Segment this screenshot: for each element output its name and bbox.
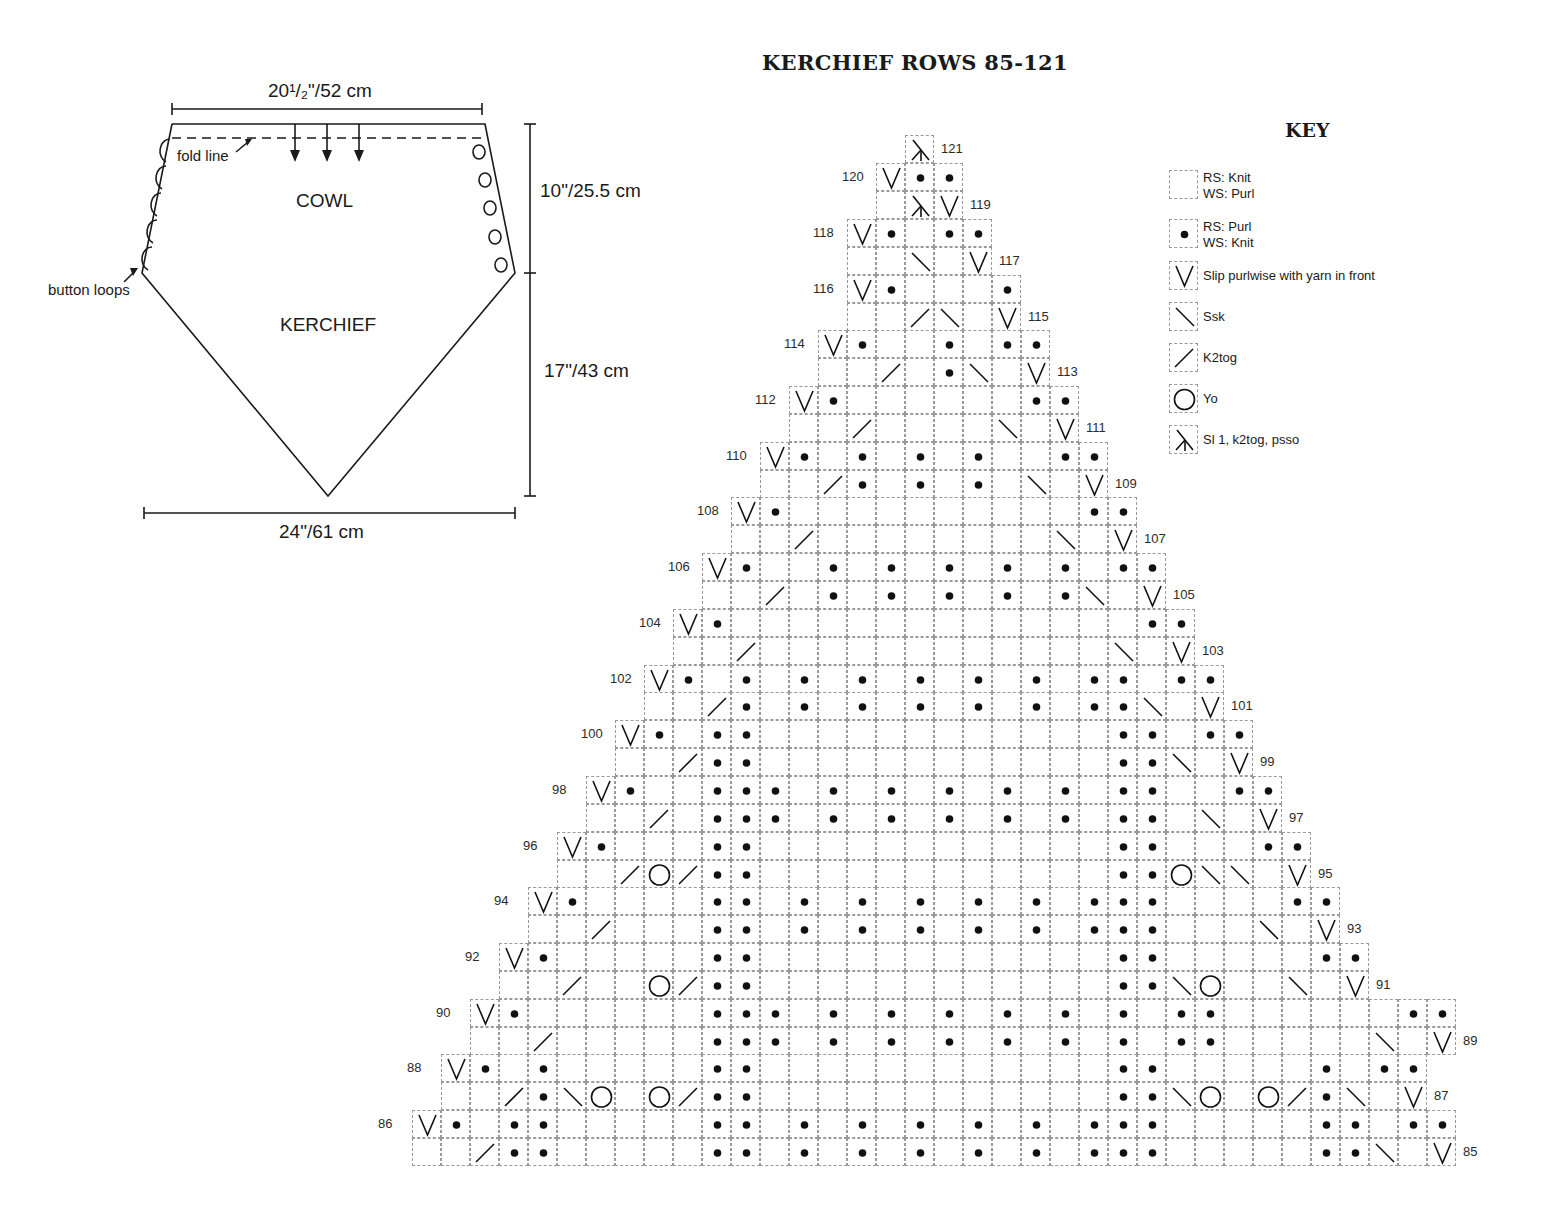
knit-stitch bbox=[760, 1110, 789, 1138]
knit-stitch bbox=[1195, 1110, 1224, 1138]
purl-icon bbox=[731, 692, 760, 720]
purl-icon bbox=[731, 943, 760, 971]
knit-stitch bbox=[1021, 637, 1050, 665]
knit-stitch bbox=[876, 609, 905, 637]
slip-wyif-icon bbox=[1427, 1027, 1456, 1055]
purl-icon bbox=[876, 581, 905, 609]
purl-icon bbox=[876, 804, 905, 832]
knit-stitch bbox=[818, 832, 847, 860]
purl-icon bbox=[1137, 553, 1166, 581]
purl-icon bbox=[847, 330, 876, 358]
knit-stitch bbox=[847, 1082, 876, 1110]
knit-stitch bbox=[702, 665, 731, 693]
knit-stitch bbox=[818, 971, 847, 999]
purl-icon bbox=[528, 1138, 557, 1166]
knit-stitch bbox=[818, 1054, 847, 1082]
purl-icon bbox=[731, 748, 760, 776]
knit-stitch bbox=[615, 915, 644, 943]
knit-stitch bbox=[1369, 999, 1398, 1027]
knit-stitch bbox=[789, 776, 818, 804]
row-number: 103 bbox=[1202, 637, 1224, 665]
knit-stitch bbox=[905, 720, 934, 748]
knit-stitch bbox=[992, 832, 1021, 860]
knit-stitch bbox=[1079, 832, 1108, 860]
slip-wyif-icon bbox=[1253, 804, 1282, 832]
knit-stitch bbox=[615, 1138, 644, 1166]
knit-stitch bbox=[1050, 915, 1079, 943]
row-number: 116 bbox=[813, 275, 834, 303]
purl-icon bbox=[731, 1027, 760, 1055]
knit-stitch bbox=[1079, 748, 1108, 776]
purl-icon bbox=[731, 665, 760, 693]
ssk-icon bbox=[1253, 915, 1282, 943]
knit-stitch bbox=[963, 581, 992, 609]
knit-stitch bbox=[557, 915, 586, 943]
knit-stitch bbox=[586, 860, 615, 888]
knit-stitch bbox=[1253, 999, 1282, 1027]
purl-icon bbox=[1398, 1054, 1427, 1082]
knit-stitch bbox=[876, 386, 905, 414]
purl-icon bbox=[1108, 943, 1137, 971]
knit-stitch bbox=[1079, 525, 1108, 553]
knit-stitch bbox=[934, 275, 963, 303]
purl-icon bbox=[1137, 1082, 1166, 1110]
knit-stitch bbox=[992, 497, 1021, 525]
purl-icon bbox=[441, 1110, 470, 1138]
purl-icon bbox=[905, 915, 934, 943]
knit-stitch bbox=[789, 943, 818, 971]
knit-stitch bbox=[644, 999, 673, 1027]
key-label: Sl 1, k2tog, psso bbox=[1203, 432, 1299, 448]
knit-stitch bbox=[876, 303, 905, 331]
k2tog-icon bbox=[557, 971, 586, 999]
ssk-icon bbox=[1079, 581, 1108, 609]
knit-stitch bbox=[673, 1054, 702, 1082]
purl-icon bbox=[1108, 692, 1137, 720]
purl-icon bbox=[1021, 1138, 1050, 1166]
purl-icon bbox=[1137, 1054, 1166, 1082]
knit-stitch bbox=[818, 720, 847, 748]
knit-stitch bbox=[1224, 1082, 1253, 1110]
purl-icon bbox=[1079, 1110, 1108, 1138]
knit-stitch bbox=[876, 887, 905, 915]
knit-stitch bbox=[789, 720, 818, 748]
stitch-chart: 1211201191181171161151141131121111101091… bbox=[0, 0, 1544, 1216]
knit-stitch bbox=[1050, 665, 1079, 693]
purl-icon bbox=[1137, 1138, 1166, 1166]
slip-wyif-icon bbox=[1282, 860, 1311, 888]
knit-stitch bbox=[963, 999, 992, 1027]
purl-icon bbox=[702, 748, 731, 776]
knit-stitch bbox=[586, 1138, 615, 1166]
purl-icon bbox=[934, 163, 963, 191]
knit-stitch bbox=[818, 414, 847, 442]
knit-stitch bbox=[876, 330, 905, 358]
purl-icon bbox=[615, 776, 644, 804]
purl-icon bbox=[702, 804, 731, 832]
purl-icon bbox=[1282, 832, 1311, 860]
purl-icon bbox=[1195, 665, 1224, 693]
key-label: RS: Knit bbox=[1203, 170, 1254, 186]
key-label: Slip purlwise with yarn in front bbox=[1203, 268, 1375, 284]
knit-stitch bbox=[847, 804, 876, 832]
knit-stitch bbox=[441, 1138, 470, 1166]
knit-stitch bbox=[644, 943, 673, 971]
knit-stitch bbox=[644, 915, 673, 943]
purl-icon bbox=[1311, 1054, 1340, 1082]
k2tog-icon bbox=[673, 860, 702, 888]
knit-stitch bbox=[934, 525, 963, 553]
purl-icon bbox=[702, 915, 731, 943]
k2tog-icon bbox=[760, 581, 789, 609]
knit-stitch bbox=[673, 776, 702, 804]
purl-icon bbox=[1079, 442, 1108, 470]
row-number: 108 bbox=[697, 497, 719, 525]
row-number: 89 bbox=[1463, 1027, 1477, 1055]
knit-stitch bbox=[760, 915, 789, 943]
knit-stitch bbox=[934, 1054, 963, 1082]
purl-icon bbox=[934, 553, 963, 581]
knit-stitch bbox=[818, 1110, 847, 1138]
knit-stitch bbox=[731, 525, 760, 553]
knit-stitch bbox=[1340, 1054, 1369, 1082]
purl-icon bbox=[934, 219, 963, 247]
row-number: 96 bbox=[523, 832, 537, 860]
purl-icon bbox=[876, 999, 905, 1027]
k2tog-icon bbox=[905, 303, 934, 331]
